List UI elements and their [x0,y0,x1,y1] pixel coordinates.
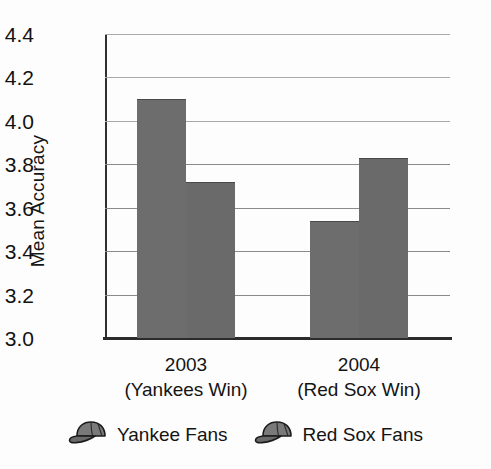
gridline [105,77,450,78]
bar-2003-yankee-fans[interactable] [137,99,186,338]
category-year: 2004 [244,352,474,377]
bar-chart-figure: Mean Accuracy 4.4 4.2 4.0 3.8 3.6 3.4 3.… [0,0,491,469]
legend-item-red-sox-fans[interactable]: Red Sox Fans [254,420,423,450]
y-axis-tick-label: 3.6 [0,198,34,219]
y-axis-tick-label: 3.8 [0,154,34,175]
baseball-cap-icon [68,420,110,450]
y-axis-tick-label: 4.2 [0,67,34,88]
bar-2004-yankee-fans[interactable] [310,221,359,338]
legend-label: Red Sox Fans [303,424,423,446]
bar-2003-red-sox-fans[interactable] [186,182,235,338]
y-axis-line [105,34,107,338]
plot-area [105,34,450,338]
gridline [105,34,450,35]
x-axis-category-label-2004: 2004 (Red Sox Win) [244,352,474,402]
y-axis-tick-label: 3.4 [0,241,34,262]
category-subtitle: (Red Sox Win) [244,377,474,402]
y-axis-tick-label: 3.2 [0,285,34,306]
bar-2004-red-sox-fans[interactable] [359,158,408,338]
y-axis-tick-label: 3.0 [0,328,34,349]
baseball-cap-icon [254,420,296,450]
y-axis-tick-label: 4.0 [0,111,34,132]
legend-label: Yankee Fans [117,424,228,446]
chart-legend: Yankee Fans Red Sox Fans [0,413,491,457]
y-axis-tick-label: 4.4 [0,24,34,45]
legend-item-yankee-fans[interactable]: Yankee Fans [68,420,228,450]
